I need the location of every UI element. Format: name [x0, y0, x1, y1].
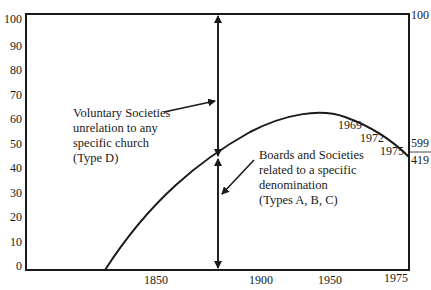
svg-text:related to a specific: related to a specific [259, 163, 357, 177]
right-label-419: 419 [411, 153, 429, 167]
y-tick: 10 [10, 235, 22, 249]
y-tick: 90 [10, 39, 22, 53]
year-1969: 1969 [338, 118, 362, 132]
right-label-599: 599 [411, 136, 429, 150]
svg-text:specific church: specific church [73, 136, 150, 150]
y-axis-labels: 0 10 20 30 40 50 60 70 80 90 100 [4, 12, 22, 273]
y-tick: 80 [10, 63, 22, 77]
y-tick: 60 [10, 112, 22, 126]
svg-text:unrelation to any: unrelation to any [73, 121, 158, 135]
svg-text:(Type D): (Type D) [73, 151, 118, 165]
y-tick: 20 [10, 210, 22, 224]
svg-text:Boards and Societies: Boards and Societies [259, 148, 364, 162]
right-label-top: 100 [411, 8, 429, 22]
y-tick: 30 [10, 186, 22, 200]
year-1975: 1975 [380, 144, 404, 158]
voluntary-annotation: Voluntary Societies unrelation to any sp… [73, 106, 170, 165]
boards-pointer-arrow [222, 160, 254, 194]
x-tick: 1975 [384, 271, 408, 285]
y-tick: 50 [10, 137, 22, 151]
x-tick: 1900 [249, 273, 273, 287]
svg-text:(Types A, B, C): (Types A, B, C) [259, 193, 338, 207]
svg-text:denomination: denomination [259, 178, 328, 192]
right-axis-labels: 100 599 419 [410, 8, 431, 167]
year-1972: 1972 [360, 131, 384, 145]
y-tick: 100 [4, 12, 22, 26]
x-tick: 1850 [144, 273, 168, 287]
y-tick: 0 [16, 259, 22, 273]
svg-text:Voluntary Societies: Voluntary Societies [73, 106, 170, 120]
x-tick: 1950 [318, 273, 342, 287]
y-tick: 70 [10, 88, 22, 102]
boards-annotation: Boards and Societies related to a specif… [259, 148, 364, 207]
chart: 0 10 20 30 40 50 60 70 80 90 100 1850 19… [0, 0, 431, 290]
voluntary-pointer-arrow [164, 101, 215, 112]
x-axis-labels: 1850 1900 1950 1975 [144, 271, 408, 287]
y-tick: 40 [10, 161, 22, 175]
